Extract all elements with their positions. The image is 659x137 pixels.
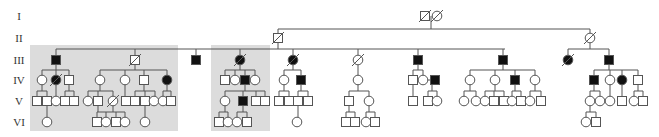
circle-symbol xyxy=(279,75,289,85)
square-symbol xyxy=(517,97,526,106)
female-individual-V-38 xyxy=(595,96,605,106)
circle-symbol xyxy=(605,96,615,106)
circle-symbol xyxy=(581,117,591,127)
female-individual-IV-11 xyxy=(250,75,260,85)
female-individual-V-39 xyxy=(605,96,615,106)
circle-symbol xyxy=(140,117,150,127)
circle-symbol xyxy=(230,75,240,85)
male-individual-III-1 xyxy=(52,56,61,65)
circle-symbol xyxy=(465,75,475,85)
square-symbol xyxy=(351,118,360,127)
square-symbol xyxy=(618,97,627,106)
female-individual-V-37 xyxy=(585,96,595,106)
female-individual-IV-18 xyxy=(465,75,475,85)
square-symbol xyxy=(499,56,508,65)
male-individual-V-31 xyxy=(490,97,499,106)
circle-symbol xyxy=(418,75,428,85)
female-individual-IV-19 xyxy=(490,75,500,85)
square-symbol xyxy=(221,76,230,85)
male-individual-IV-8 xyxy=(221,76,230,85)
male-individual-V-19 xyxy=(275,97,284,106)
square-symbol xyxy=(61,97,70,106)
square-symbol xyxy=(141,97,150,106)
male-individual-V-22 xyxy=(304,97,313,106)
male-individual-V-25 xyxy=(409,97,418,106)
pedigree-diagram: IIIIIIIVVVI xyxy=(0,0,659,137)
female-individual-II-2 xyxy=(584,32,596,44)
square-symbol xyxy=(140,76,149,85)
female-individual-IV-24 xyxy=(617,75,627,85)
male-individual-IV-3 xyxy=(65,76,74,85)
female-individual-VI-3 xyxy=(101,117,111,127)
circle-symbol xyxy=(149,96,159,106)
square-symbol xyxy=(33,97,42,106)
male-individual-V-20 xyxy=(285,97,294,106)
square-symbol xyxy=(592,118,601,127)
square-symbol xyxy=(409,97,418,106)
circle-symbol xyxy=(42,117,52,127)
circle-symbol xyxy=(629,96,639,106)
female-individual-IV-1 xyxy=(37,75,47,85)
male-individual-III-3 xyxy=(192,56,201,65)
male-individual-V-11 xyxy=(141,97,150,106)
female-individual-V-28 xyxy=(459,96,469,106)
square-symbol xyxy=(192,56,201,65)
male-individual-VI-13 xyxy=(351,118,360,127)
circle-symbol xyxy=(83,96,93,106)
square-symbol xyxy=(112,118,121,127)
circle-symbol xyxy=(220,96,230,106)
square-symbol xyxy=(345,97,354,106)
circle-symbol xyxy=(95,75,105,85)
circle-symbol xyxy=(120,117,130,127)
generation-labels: IIIIIIIVVVI xyxy=(13,10,25,128)
square-symbol xyxy=(167,97,176,106)
male-individual-V-14 xyxy=(167,97,176,106)
square-symbol xyxy=(241,76,250,85)
circle-symbol xyxy=(595,96,605,106)
square-symbol xyxy=(605,56,614,65)
square-symbol xyxy=(511,76,520,85)
square-symbol xyxy=(634,76,643,85)
male-individual-IV-17 xyxy=(431,76,440,85)
male-individual-VI-12 xyxy=(342,118,351,127)
circle-symbol xyxy=(605,75,615,85)
male-individual-V-7 xyxy=(94,97,103,106)
square-symbol xyxy=(65,76,74,85)
circle-symbol xyxy=(292,117,302,127)
generation-label: IV xyxy=(13,74,25,86)
male-individual-VI-17 xyxy=(592,118,601,127)
circle-symbol xyxy=(459,96,469,106)
square-symbol xyxy=(342,118,351,127)
female-individual-V-27 xyxy=(432,96,442,106)
male-individual-III-2 xyxy=(129,54,141,66)
male-individual-VI-2 xyxy=(93,118,102,127)
square-symbol xyxy=(285,97,294,106)
male-individual-IV-15 xyxy=(409,76,418,85)
square-symbol xyxy=(275,97,284,106)
male-individual-III-7 xyxy=(414,56,423,65)
generation-label: III xyxy=(14,54,25,66)
circle-symbol xyxy=(120,75,130,85)
square-symbol xyxy=(297,76,306,85)
female-individual-III-9 xyxy=(562,54,574,66)
square-symbol xyxy=(122,97,131,106)
square-symbol xyxy=(537,97,546,106)
square-symbol xyxy=(261,97,270,106)
female-individual-VI-16 xyxy=(581,117,591,127)
square-symbol xyxy=(371,118,380,127)
female-individual-VI-8 xyxy=(223,117,233,127)
generation-label: I xyxy=(17,10,21,22)
female-individual-IV-9 xyxy=(230,75,240,85)
male-individual-V-10 xyxy=(131,97,140,106)
male-individual-V-21 xyxy=(294,97,303,106)
square-symbol xyxy=(94,97,103,106)
male-individual-VI-15 xyxy=(371,118,380,127)
circle-symbol xyxy=(432,96,442,106)
circle-symbol xyxy=(250,75,260,85)
circle-symbol xyxy=(232,117,242,127)
generation-label: V xyxy=(15,95,23,107)
circle-symbol xyxy=(361,117,371,127)
square-symbol xyxy=(639,97,648,106)
male-individual-IV-10 xyxy=(241,76,250,85)
square-symbol xyxy=(424,97,433,106)
